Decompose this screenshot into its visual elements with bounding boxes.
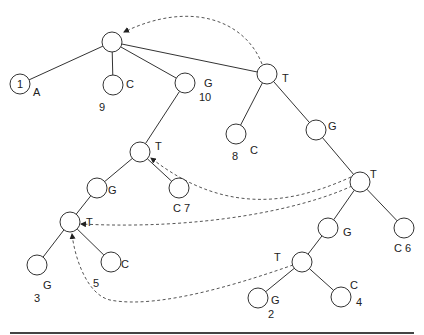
- tree-edge: [76, 196, 91, 214]
- tree-edge: [112, 52, 113, 75]
- suffix-link-arrow: [81, 186, 352, 225]
- tree-node: G: [87, 178, 117, 198]
- node-label: 4: [356, 296, 362, 308]
- tree-edges: [29, 44, 397, 292]
- tree-edge: [308, 236, 322, 254]
- tree-edge: [121, 47, 177, 78]
- node-circle: [60, 212, 80, 232]
- node-label: G: [43, 279, 52, 291]
- tree-node: [102, 32, 122, 52]
- node-label: C: [250, 144, 258, 156]
- tree-edge: [266, 268, 295, 291]
- node-label: G: [328, 120, 337, 132]
- tree-edge: [43, 230, 64, 257]
- node-circle: [350, 172, 370, 192]
- tree-edge: [334, 190, 355, 220]
- tree-edge: [122, 44, 257, 72]
- tree-edge: [309, 269, 333, 291]
- tree-node: G10: [175, 73, 213, 103]
- node-circle: [257, 64, 277, 84]
- node-label: A: [33, 86, 41, 98]
- tree-node: C 6: [394, 218, 414, 254]
- tree-node: T: [60, 212, 93, 232]
- node-label: 9: [99, 101, 105, 113]
- tree-edge: [274, 82, 310, 123]
- node-label: C: [126, 78, 134, 90]
- node-label: T: [155, 140, 162, 152]
- node-circle: [306, 120, 326, 140]
- node-circle: [169, 178, 189, 198]
- tree-node: C9: [99, 75, 134, 113]
- tree-edge: [145, 91, 179, 143]
- tree-node: C5: [93, 252, 129, 289]
- node-circle: [130, 142, 150, 162]
- tree-node: 8C: [226, 124, 258, 162]
- node-circle: [87, 178, 107, 198]
- tree-edge: [367, 189, 397, 221]
- node-circle: [394, 218, 414, 238]
- tree-node: G3: [27, 255, 52, 304]
- tree-node: G: [318, 218, 352, 238]
- tree-edge: [29, 46, 103, 80]
- suffix-tree-diagram: 1AC9G10T8CGTGC 6TG2C4TGC 7TG3C5: [0, 0, 424, 335]
- node-label: 2: [268, 308, 274, 320]
- node-label: G: [108, 184, 117, 196]
- tree-edge: [241, 83, 263, 125]
- node-label: C: [350, 279, 358, 291]
- node-circle: [101, 252, 121, 272]
- tree-node: 1A: [10, 74, 41, 98]
- node-label: G: [204, 77, 213, 89]
- node-inner-label: 1: [17, 78, 23, 90]
- tree-node: C4: [331, 279, 362, 308]
- node-label: T: [282, 72, 289, 84]
- tree-node: T: [350, 168, 377, 192]
- node-circle: [103, 75, 123, 95]
- node-circle: [175, 73, 195, 93]
- tree-edge: [147, 159, 171, 181]
- node-label: G: [271, 294, 280, 306]
- tree-edge: [105, 158, 133, 181]
- node-label: C 7: [173, 202, 190, 214]
- tree-nodes: 1AC9G10T8CGTGC 6TG2C4TGC 7TG3C5: [10, 32, 414, 320]
- tree-node: G2: [248, 288, 280, 320]
- node-label: 8: [232, 150, 238, 162]
- node-circle: [102, 32, 122, 52]
- node-label: C 6: [394, 242, 411, 254]
- node-circle: [318, 218, 338, 238]
- tree-node: G: [306, 120, 337, 140]
- node-label: C: [121, 258, 129, 270]
- tree-node: T: [257, 64, 289, 84]
- node-label: 10: [199, 91, 211, 103]
- node-label: 5: [93, 277, 99, 289]
- node-label: 3: [34, 292, 40, 304]
- tree-edge: [322, 138, 353, 175]
- tree-edge: [77, 229, 104, 255]
- node-circle: [226, 124, 246, 144]
- node-label: T: [274, 251, 281, 263]
- node-circle: [292, 252, 312, 272]
- node-label: G: [343, 226, 352, 238]
- node-circle: [27, 255, 47, 275]
- tree-node: C 7: [169, 178, 190, 214]
- node-circle: [331, 287, 351, 307]
- node-circle: [248, 288, 268, 308]
- node-label: T: [86, 216, 93, 228]
- suffix-link-arrow: [124, 16, 262, 64]
- node-label: T: [370, 168, 377, 180]
